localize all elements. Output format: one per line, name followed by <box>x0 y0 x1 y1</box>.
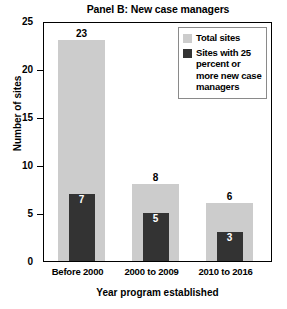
y-tick-label-20: 20 <box>0 65 33 75</box>
y-tick-label-5: 5 <box>0 209 33 219</box>
bar-total-value-label: 6 <box>206 192 253 202</box>
page-title: Panel B: New case managers <box>43 3 273 15</box>
y-tick-label-25: 25 <box>0 17 33 27</box>
legend-swatch-icon-total-sites <box>183 34 192 43</box>
bar-sub-value-label: 5 <box>153 214 159 224</box>
legend-swatch-icon-sites-with-25-percent <box>183 49 192 58</box>
legend-label-total-sites: Total sites <box>196 32 240 44</box>
y-tick-label-15: 15 <box>0 113 33 123</box>
bar-sub-value-label: 3 <box>227 233 233 243</box>
legend-item-sites-with-25-percent[interactable]: Sites with 25 percent or more new case m… <box>183 47 262 93</box>
y-tick-label-0: 0 <box>0 257 33 267</box>
x-tick-label-2010-to-2016: 2010 to 2016 <box>182 266 269 277</box>
bar-total-value-label: 23 <box>58 29 105 39</box>
bar-group-2000-to-2009: 8 5 <box>132 23 179 261</box>
y-tick-label-10: 10 <box>0 161 33 171</box>
bar-group-before-2000: 23 7 <box>58 23 105 261</box>
legend-label-sites-with-25-percent: Sites with 25 percent or more new case m… <box>196 47 262 93</box>
legend-item-total-sites[interactable]: Total sites <box>183 32 262 44</box>
x-axis-title: Year program established <box>43 287 272 298</box>
bar-total-value-label: 8 <box>132 173 179 183</box>
legend: Total sites Sites with 25 percent or mor… <box>178 27 267 99</box>
bar-sub-value-label: 7 <box>79 195 85 205</box>
chart-screenshot: Panel B: New case managers Number of sit… <box>0 0 287 309</box>
